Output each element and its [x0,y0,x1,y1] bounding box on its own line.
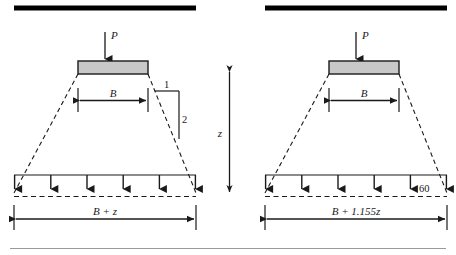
depth-label: z [217,127,223,139]
slope-rise-label: 1 [164,79,169,90]
footing-block-left [78,61,148,74]
slope-run-label: 2 [182,114,187,125]
figure-root: P B 1 2 [0,0,456,255]
b-dimension-label-right: B [361,87,368,99]
ground-surface-bar-left [14,6,196,11]
angle-label-sixty: 60 [419,183,430,194]
load-label-left: P [110,29,118,41]
stress-distribution-diagram: P B 1 2 [0,0,456,255]
b-dimension-label-left: B [110,87,117,99]
depth-dimension-group: z [217,72,230,192]
load-label-right: P [361,29,369,41]
ground-surface-bar-right [265,6,447,11]
footing-block-right [329,61,399,74]
right-panel-group: P B 60 B + 1.15 [265,29,447,230]
left-panel-group: P B 1 2 [14,29,196,230]
spread-width-label-right: B + 1.155z [332,205,381,217]
spread-width-label-left: B + z [93,205,118,217]
